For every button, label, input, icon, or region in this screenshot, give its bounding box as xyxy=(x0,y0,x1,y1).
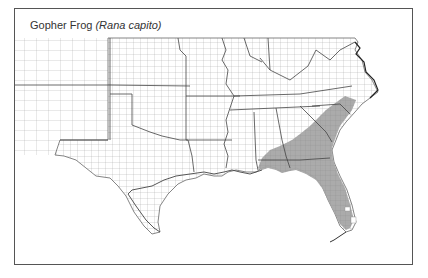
map-title: Gopher Frog (Rana capito) xyxy=(30,19,161,31)
land-west xyxy=(15,38,108,155)
range-map xyxy=(0,0,428,278)
scientific-name: (Rana capito) xyxy=(95,19,161,31)
common-name: Gopher Frog xyxy=(30,19,92,31)
florida-keys xyxy=(330,232,346,242)
